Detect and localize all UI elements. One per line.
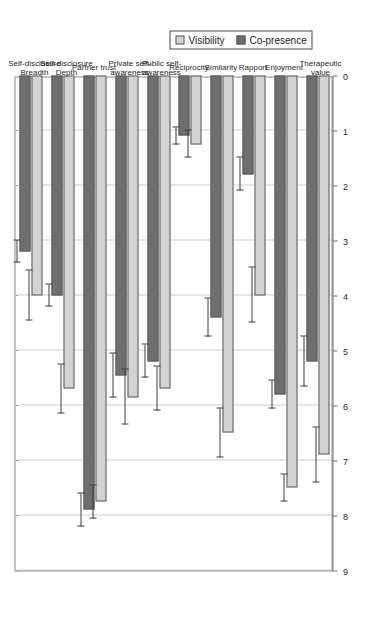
bar-visibility [95,75,106,501]
error-bar-cap [268,379,275,380]
bar-co-presence [19,75,30,251]
error-bar-cap [236,157,243,158]
error-bar-cap [184,129,191,130]
error-bar-cap [268,407,275,408]
category-row [47,77,79,570]
bar-visibility [286,75,297,488]
error-bar-cap [57,412,64,413]
bar-visibility [222,75,233,433]
error-bar [239,158,240,191]
error-bar-cap [300,335,307,336]
error-bar-cap [45,305,52,306]
bar-visibility [190,75,201,144]
error-bar [187,130,188,158]
plot-frame [14,76,332,571]
error-bar [303,336,304,386]
error-bar [156,367,157,411]
bar-co-presence [274,75,285,394]
legend-item[interactable]: Co-presence [236,34,306,45]
category-row [269,77,301,570]
legend-item[interactable]: Visibility [175,34,224,45]
axis-tick-label: 3 [333,236,357,246]
bar-visibility [127,75,138,397]
error-bar-cap [280,473,287,474]
error-bar-cap [216,407,223,408]
error-bar-cap [236,190,243,191]
chart-legend: VisibilityCo-presence [169,30,312,49]
bar-co-presence [115,75,126,375]
axis-tick-label: 5 [333,346,357,356]
error-bar [251,268,252,323]
category-row [142,77,174,570]
bar-co-presence [51,75,62,295]
error-bar [48,284,49,306]
error-bar-cap [153,366,160,367]
error-bar-cap [109,352,116,353]
plot-area [15,77,331,570]
axis-tick-label: 6 [333,401,357,411]
error-bar [124,369,125,424]
error-bar-cap [141,344,148,345]
error-bar-cap [25,319,32,320]
category-row [301,77,333,570]
error-bar [283,474,284,502]
error-bar-cap [89,484,96,485]
legend-label: Co-presence [249,34,306,45]
error-bar-cap [312,426,319,427]
error-bar [207,298,208,337]
error-bar [219,408,220,458]
error-bar [112,353,113,397]
axis-tick-label: 4 [333,291,357,301]
error-bar-cap [280,500,287,501]
error-bar-cap [13,239,20,240]
error-bar [28,270,29,320]
value-axis [332,76,333,571]
error-bar-cap [248,267,255,268]
category-row [15,77,47,570]
bar-co-presence [83,75,94,510]
error-bar-cap [121,423,128,424]
axis-tick-label: 7 [333,456,357,466]
error-bar-cap [109,396,116,397]
error-bar [175,127,176,144]
bar-visibility [31,75,42,295]
bar-visibility [318,75,329,455]
bar-co-presence [178,75,189,136]
error-bar-cap [77,492,84,493]
error-bar [144,345,145,378]
axis-tick-label: 8 [333,511,357,521]
category-row [238,77,270,570]
legend-swatch-icon [175,35,184,44]
error-bar-cap [25,269,32,270]
category-row [79,77,111,570]
category-row [110,77,142,570]
axis-tick-label: 9 [333,566,357,576]
error-bar [16,240,17,262]
error-bar-cap [57,363,64,364]
error-bar-cap [204,335,211,336]
category-label: Therapeuticvalue [283,58,357,76]
error-bar-cap [153,410,160,411]
legend-label: Visibility [188,34,224,45]
bar-co-presence [306,75,317,361]
rotated-figure-wrapper: 0123456789 Self-disclosureBreadthSelf-di… [0,0,385,643]
error-bar-cap [248,322,255,323]
error-bar-cap [13,261,20,262]
error-bar [60,364,61,414]
error-bar-cap [204,297,211,298]
error-bar [271,380,272,408]
bar-chart-figure: 0123456789 Self-disclosureBreadthSelf-di… [0,0,385,643]
error-bar-cap [300,385,307,386]
error-bar-cap [121,368,128,369]
error-bar-cap [184,157,191,158]
axis-tick-label: 1 [333,126,357,136]
axis-tick-label: 2 [333,181,357,191]
error-bar-cap [216,456,223,457]
bar-visibility [254,75,265,295]
error-bar-cap [141,377,148,378]
error-bar-cap [45,283,52,284]
category-row [174,77,206,570]
category-row [206,77,238,570]
error-bar [92,485,93,518]
error-bar-cap [172,126,179,127]
